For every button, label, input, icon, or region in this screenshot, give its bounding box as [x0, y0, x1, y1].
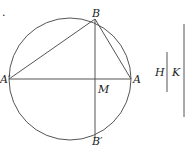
label-a-prime: A′	[0, 73, 11, 86]
label-a: A	[132, 73, 141, 86]
label-m: M	[97, 83, 110, 96]
segment-a-prime-b	[9, 19, 95, 79]
stray-mark: .	[2, 6, 6, 19]
segment-b-a	[95, 19, 131, 79]
label-k: K	[171, 66, 181, 79]
label-b: B	[91, 7, 100, 20]
label-h: H	[154, 66, 165, 79]
label-b-prime: B′	[91, 135, 103, 145]
geometry-diagram: . B A′ A M B′ H K	[0, 0, 190, 145]
